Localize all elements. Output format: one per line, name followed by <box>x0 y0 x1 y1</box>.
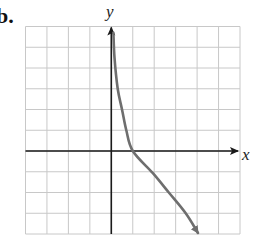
function-curve <box>113 33 198 233</box>
y-axis-label: y <box>106 3 114 20</box>
part-label: b. <box>0 5 14 27</box>
coordinate-plane <box>0 0 258 238</box>
grid-lines <box>26 27 241 235</box>
x-axis-label: x <box>242 146 250 163</box>
graph-figure: b. x y <box>0 0 258 238</box>
